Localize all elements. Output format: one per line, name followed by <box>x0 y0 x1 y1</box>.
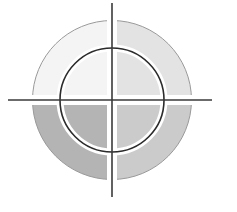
crosshair-target-emblem <box>0 0 237 212</box>
emblem-canvas <box>0 0 237 212</box>
